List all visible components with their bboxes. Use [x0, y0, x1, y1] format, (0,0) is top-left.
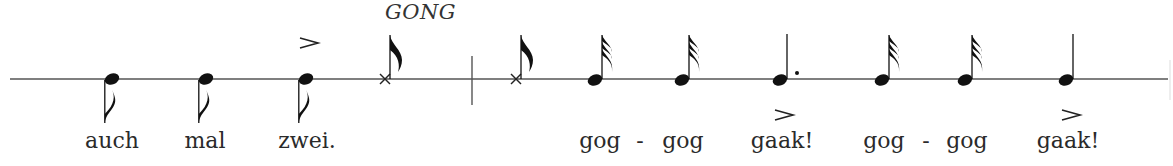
thirty-second-note	[586, 35, 612, 88]
lyric-syllable: gog	[863, 130, 904, 152]
eighth-note-stem-down	[197, 71, 215, 123]
lyric-syllable: gog	[579, 130, 620, 152]
lyric-syllable: zwei.	[278, 130, 335, 152]
thirty-second-note	[673, 35, 699, 88]
lyric-syllable: mal	[184, 130, 225, 152]
accent-mark-icon	[300, 38, 318, 48]
thirty-second-note	[956, 35, 982, 88]
eighth-note-stem-down	[103, 71, 121, 123]
lyric-syllable: gog	[662, 130, 703, 152]
dotted-quarter-note	[771, 34, 799, 88]
lyric-syllable: gaak!	[751, 130, 814, 152]
x-notehead-eighth-note	[380, 35, 402, 84]
lyric-hyphen: -	[636, 130, 643, 152]
gong-instrument-label: GONG	[385, 2, 456, 23]
lyric-syllable: gaak!	[1037, 130, 1100, 152]
lyric-syllable: auch	[85, 130, 139, 152]
accent-mark-icon	[775, 110, 793, 120]
accent-mark-icon	[1062, 110, 1080, 120]
quarter-note	[1057, 34, 1075, 88]
x-notehead-eighth-note	[511, 35, 533, 84]
thirty-second-note	[873, 35, 899, 88]
lyric-hyphen: -	[922, 130, 929, 152]
eighth-note-stem-down-accented	[297, 71, 315, 123]
lyric-syllable: gog	[946, 130, 987, 152]
